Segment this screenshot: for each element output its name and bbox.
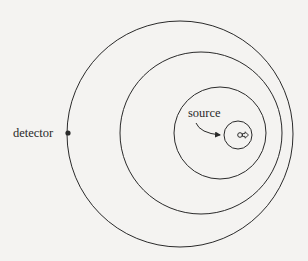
doppler-diagram: detector source [0,0,308,261]
detector-label: detector [13,126,54,140]
source-label: source [188,106,221,120]
detector-dot [65,130,70,135]
source-icon [238,132,249,138]
motion-arrow-icon [243,132,249,138]
wavefront-second [120,52,282,214]
source-pointer-arrow [196,123,220,135]
diagram-canvas: detector source [0,0,308,261]
